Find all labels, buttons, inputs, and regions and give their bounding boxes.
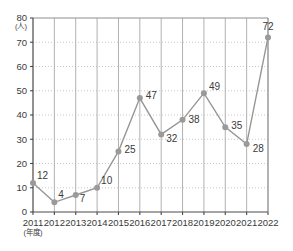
x-tick-label: 2012: [44, 217, 65, 228]
data-point-marker: [94, 185, 100, 191]
x-tick-label: 2021: [236, 217, 257, 228]
x-tick-label: 2019: [193, 217, 214, 228]
y-tick-label: 30: [16, 134, 27, 145]
x-tick-label: 2018: [172, 217, 193, 228]
data-point-label: 12: [37, 170, 49, 181]
y-tick-label: 10: [16, 182, 27, 193]
data-point-label: 10: [101, 175, 113, 186]
line-chart: 01020304050607080 2011201220132014201520…: [0, 0, 293, 251]
data-point-label: 35: [231, 120, 243, 131]
data-point-label: 25: [124, 144, 136, 155]
data-point-marker: [222, 124, 228, 130]
y-tick-label: 50: [16, 85, 27, 96]
y-tick-label: 70: [16, 37, 27, 48]
y-tick-label: 20: [16, 158, 27, 169]
data-point-marker: [158, 131, 164, 137]
x-tick-label: 2014: [87, 217, 108, 228]
data-point-marker: [30, 180, 36, 186]
chart-canvas: 01020304050607080 2011201220132014201520…: [0, 0, 293, 251]
x-tick-label: 2013: [65, 217, 86, 228]
data-point-marker: [115, 148, 121, 154]
x-tick-label: 2011: [23, 217, 43, 228]
data-point-label: 7: [80, 193, 86, 204]
data-point-label: 32: [166, 133, 178, 144]
x-tick-label: 2020: [215, 217, 236, 228]
y-tick-label: 40: [16, 109, 27, 120]
data-point-marker: [180, 117, 186, 123]
x-tick-label: 2022: [257, 217, 278, 228]
data-point-marker: [137, 95, 143, 101]
data-point-label: 47: [146, 90, 158, 101]
data-point-label: 49: [209, 81, 221, 92]
y-axis-ticks: 01020304050607080: [16, 12, 33, 217]
vertical-gridlines: [54, 18, 268, 212]
data-point-label: 38: [189, 114, 201, 125]
data-point-label: 72: [262, 21, 274, 32]
data-point-marker: [73, 192, 79, 198]
data-point-labels: 1247102547323849352872: [37, 21, 274, 204]
data-point-label: 28: [253, 143, 265, 154]
data-point-marker: [244, 141, 250, 147]
x-axis-unit-label: (年度): [24, 227, 43, 237]
x-axis-ticks: 2011201220132014201520162017201820192020…: [23, 212, 279, 228]
data-point-marker: [201, 90, 207, 96]
data-point-marker: [51, 199, 57, 205]
data-point-marker: [265, 34, 271, 40]
x-tick-label: 2017: [151, 217, 172, 228]
x-tick-label: 2015: [108, 217, 129, 228]
y-tick-label: 60: [16, 61, 27, 72]
x-tick-label: 2016: [129, 217, 150, 228]
data-point-label: 4: [58, 189, 64, 200]
y-tick-label: 0: [22, 206, 27, 217]
y-axis-unit-label: (人): [15, 22, 27, 31]
